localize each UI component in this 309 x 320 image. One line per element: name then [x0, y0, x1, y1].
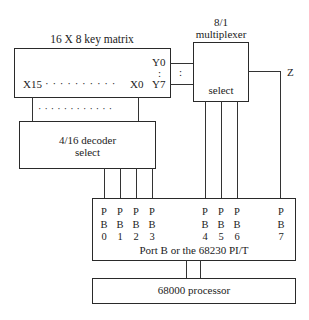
pin-pb5: PB5 [216, 206, 226, 244]
column-dots: · · · · · · · · · · · · [38, 103, 112, 115]
pb6-line [237, 101, 238, 199]
pb5-line [221, 101, 222, 199]
decoder-label: 4/16 decoder [19, 134, 156, 146]
pb2-line [136, 168, 137, 199]
mux-title-line2: multiplexer [183, 28, 259, 40]
matrix-left-column-line [32, 97, 33, 122]
pin-pb4: PB4 [200, 206, 210, 244]
pb3-line [152, 168, 153, 199]
x-dots: · · · · · · · · · · [45, 77, 116, 89]
matrix-right-column-line [138, 97, 139, 122]
key-matrix-title: 16 X 8 key matrix [14, 33, 170, 45]
mux-select-label: select [193, 84, 249, 96]
port-b-label: Port B or the 68230 PI/T [92, 244, 296, 256]
bus-line-left [186, 260, 187, 278]
pin-pb1: PB1 [115, 206, 125, 244]
decoder-select-label: select [19, 146, 156, 158]
key-matrix-box [14, 48, 171, 98]
pin-pb3: PB3 [147, 206, 157, 244]
bus-colon: : [179, 66, 182, 78]
x0-label: X0 [130, 78, 143, 90]
pb4-line [205, 101, 206, 199]
z-label: Z [287, 66, 294, 78]
y7-label: Y7 [152, 78, 165, 90]
y0-bus-line [170, 63, 194, 64]
processor-label: 68000 processor [92, 284, 296, 296]
pin-pb6: PB6 [232, 206, 242, 244]
z-output-line-h [248, 71, 281, 72]
pb0-line [104, 168, 105, 199]
y7-bus-line [170, 84, 194, 85]
z-output-line-v [280, 71, 281, 199]
pb1-line [120, 168, 121, 199]
bus-line-right [200, 260, 201, 278]
mux-title-line1: 8/1 [193, 16, 249, 28]
pin-pb2: PB2 [131, 206, 141, 244]
pin-pb0: PB0 [99, 206, 109, 244]
x15-label: X15 [23, 78, 42, 90]
pin-pb7: PB7 [276, 206, 286, 244]
